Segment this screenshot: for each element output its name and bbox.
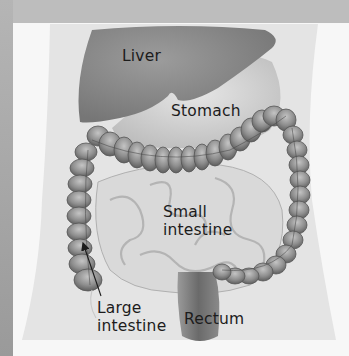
digestive-system-illustration bbox=[0, 0, 349, 356]
label-stomach: Stomach bbox=[171, 102, 241, 120]
rectum-shape bbox=[178, 272, 220, 341]
label-small-intestine-line2: intestine bbox=[163, 221, 232, 239]
label-liver: Liver bbox=[122, 47, 161, 65]
label-large-intestine-line2: intestine bbox=[97, 317, 166, 335]
label-small-intestine-line1: Small bbox=[163, 203, 232, 221]
label-large-intestine-line1: Large bbox=[97, 299, 166, 317]
label-small-intestine: Small intestine bbox=[163, 203, 232, 239]
label-large-intestine: Large intestine bbox=[97, 299, 166, 335]
label-rectum: Rectum bbox=[184, 310, 244, 328]
